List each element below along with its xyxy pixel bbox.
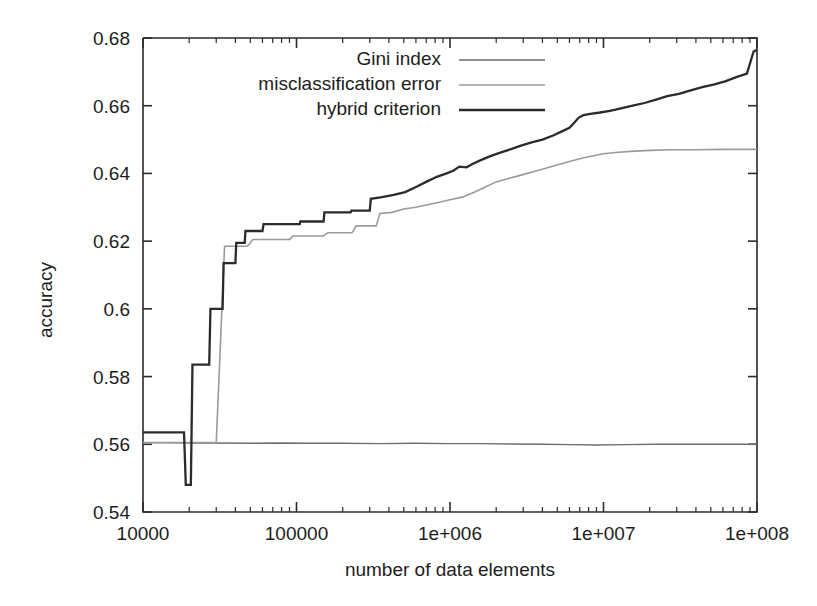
chart-figure: 0.540.560.580.60.620.640.660.68 10000100… [0,0,817,606]
legend-label: misclassification error [258,73,441,94]
y-tick-label: 0.6 [104,299,130,320]
y-tick-label: 0.64 [93,163,130,184]
legend-label: hybrid criterion [316,98,441,119]
y-tick-label: 0.66 [93,96,130,117]
x-tick-label: 10000 [117,523,170,544]
accuracy-vs-data-elements-chart: 0.540.560.580.60.620.640.660.68 10000100… [0,0,817,606]
y-tick-label: 0.56 [93,434,130,455]
x-tick-label: 1e+007 [572,523,636,544]
x-tick-label: 1e+006 [418,523,482,544]
x-tick-label: 100000 [265,523,328,544]
y-tick-label: 0.54 [93,502,130,523]
legend-label: Gini index [357,48,442,69]
y-tick-label: 0.68 [93,28,130,49]
y-axis-title: accuracy [35,261,56,338]
y-tick-label: 0.58 [93,367,130,388]
x-axis-title: number of data elements [345,559,555,580]
y-tick-label: 0.62 [93,231,130,252]
x-tick-label: 1e+008 [725,523,789,544]
